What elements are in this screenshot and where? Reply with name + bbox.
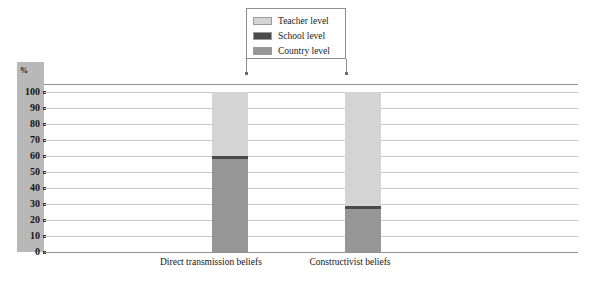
gridline [44,140,578,141]
gridline [44,172,578,173]
bar-constructivist-beliefs[interactable] [345,92,381,252]
y-axis-tick-label: 50 [14,167,40,177]
y-axis-tick-label: 0 [14,247,40,257]
legend-label-country-level: Country level [278,46,330,57]
legend-leader-line-left [246,59,247,73]
y-axis-tick-label: 80 [14,119,40,129]
legend-swatch-school-level [253,32,272,40]
chart-page: Teacher level School level Country level… [0,0,593,282]
legend-item-school-level: School level [253,29,345,43]
legend-swatch-country-level [253,47,272,55]
x-axis-label-constructivist-beliefs: Constructivist beliefs [300,257,400,267]
y-axis-tick-label: 70 [14,135,40,145]
y-axis-unit-label: % [20,66,28,75]
legend-label-school-level: School level [278,31,325,42]
legend-item-country-level: Country level [253,44,345,58]
x-axis-label-direct-transmission-beliefs: Direct transmission beliefs [160,257,260,267]
gridline [44,124,578,125]
bar-direct-transmission-beliefs[interactable] [212,92,248,252]
y-axis-tick-label: 10 [14,231,40,241]
legend-swatch-teacher-level [253,17,272,25]
legend-label-teacher-level: Teacher level [278,16,329,27]
chart-legend: Teacher level School level Country level [246,8,346,59]
bar-segment-country-level[interactable] [212,159,248,252]
y-axis-tick-label: 30 [14,199,40,209]
plot-area [44,84,578,253]
y-axis-tick-label: 90 [14,103,40,113]
plot-top-border [44,84,578,85]
gridline [44,108,578,109]
legend-leader-line-right [346,59,347,73]
y-axis-tick-label: 20 [14,215,40,225]
bar-segment-teacher-level[interactable] [212,92,248,156]
gridline [44,188,578,189]
gridline [44,204,578,205]
gridline [44,220,578,221]
legend-leader-dot-right [345,72,348,75]
bar-segment-country-level[interactable] [345,209,381,252]
legend-item-teacher-level: Teacher level [253,14,345,28]
legend-leader-dot-left [245,72,248,75]
bar-segment-teacher-level[interactable] [345,92,381,206]
y-axis-tick-label: 100 [14,87,40,97]
y-axis-tick-label: 60 [14,151,40,161]
plot-baseline [44,252,578,253]
gridline [44,236,578,237]
y-axis-tick-label: 40 [14,183,40,193]
gridline [44,92,578,93]
gridline [44,156,578,157]
